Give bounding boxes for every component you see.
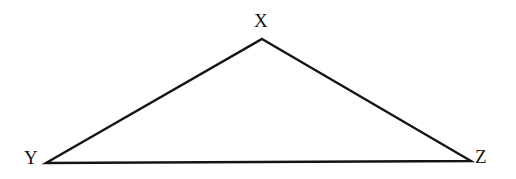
triangle-diagram: X Y Z xyxy=(0,0,516,179)
vertex-label-x: X xyxy=(254,11,268,30)
vertex-label-z: Z xyxy=(475,147,487,166)
vertex-label-y: Y xyxy=(24,148,38,167)
triangle-outline xyxy=(46,39,471,163)
